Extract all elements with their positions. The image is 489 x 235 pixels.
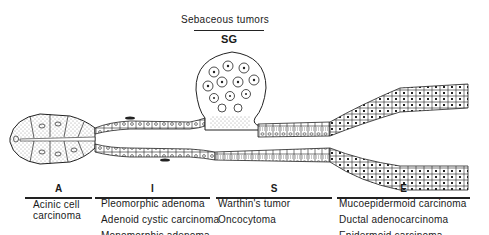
tumor-item: carcinoma — [33, 210, 81, 221]
segment-i-code: I — [95, 183, 210, 194]
tumor-item: Mucoepidermoid carcinoma — [339, 196, 467, 212]
excretory-duct-upper — [330, 84, 468, 136]
tumor-item: Warthin's tumor — [218, 196, 290, 212]
tumor-item: Pleomorphic adenoma — [101, 196, 219, 212]
tumor-item: Ductal adenocarcinoma — [339, 212, 467, 228]
tumor-item: Acinic cell — [33, 199, 81, 210]
intercalated-duct-upper — [95, 118, 205, 134]
acinus-drawing — [10, 114, 95, 164]
segment-e-code: E — [337, 183, 470, 194]
tumor-item: Monomorphic adenoma — [101, 228, 219, 235]
tumor-item: Oncocytoma — [218, 212, 290, 228]
segment-i-tumors: Pleomorphic adenoma Adenoid cystic carci… — [101, 196, 219, 235]
striated-duct-upper — [258, 122, 330, 137]
segment-e-tumors: Mucoepidermoid carcinoma Ductal adenocar… — [339, 196, 467, 235]
striated-duct-lower — [215, 148, 330, 162]
tumor-item: Epidermoid carcinoma — [339, 228, 467, 235]
tumor-item: Adenoid cystic carcinoma — [101, 212, 219, 228]
sebaceous-gland-drawing — [196, 52, 266, 130]
segment-a-code: A — [25, 183, 92, 194]
segment-s-tumors: Warthin's tumor Oncocytoma — [218, 196, 290, 228]
intercalated-duct-lower — [95, 144, 215, 160]
segment-s-code: S — [216, 183, 332, 194]
segment-a-tumors: Acinic cell carcinoma — [33, 199, 81, 221]
